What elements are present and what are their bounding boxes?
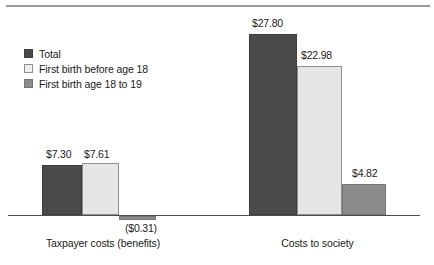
x-axis-line bbox=[8, 215, 420, 216]
plot-area: $7.30$7.61($0.31)$27.80$22.98$4.82Taxpay… bbox=[0, 0, 434, 265]
category-label-society: Costs to society bbox=[245, 237, 390, 249]
bar-taxpayer-before18 bbox=[82, 163, 119, 215]
value-label-society-total: $27.80 bbox=[252, 17, 283, 29]
value-label-taxpayer-before18: $7.61 bbox=[84, 148, 109, 160]
bar-taxpayer-total bbox=[42, 165, 82, 215]
bar-society-total bbox=[249, 34, 297, 215]
category-label-taxpayer: Taxpayer costs (benefits) bbox=[28, 237, 178, 249]
bar-taxpayer-18to19 bbox=[119, 216, 156, 220]
bar-society-before18 bbox=[297, 66, 342, 215]
bar-society-18to19 bbox=[342, 184, 386, 215]
value-label-taxpayer-18to19: ($0.31) bbox=[125, 222, 157, 234]
bar-chart: Total First birth before age 18 First bi… bbox=[0, 0, 434, 265]
value-label-taxpayer-total: $7.30 bbox=[46, 148, 71, 160]
value-label-society-18to19: $4.82 bbox=[352, 167, 377, 179]
value-label-society-before18: $22.98 bbox=[301, 49, 332, 61]
